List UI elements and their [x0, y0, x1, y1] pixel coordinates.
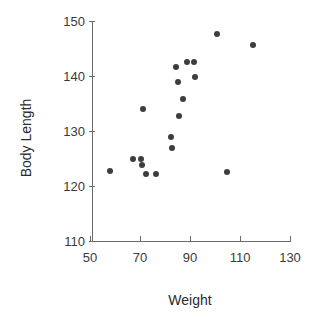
y-tick-mark [89, 21, 95, 22]
x-tick-mark [140, 236, 141, 242]
data-point [130, 156, 136, 162]
data-point [176, 113, 182, 119]
data-point [191, 59, 197, 65]
data-point [180, 96, 186, 102]
data-point [107, 168, 113, 174]
data-point [192, 74, 198, 80]
x-tick-label: 70 [133, 250, 147, 265]
y-tick-mark [89, 186, 95, 187]
data-point [175, 79, 181, 85]
y-tick-label: 150 [63, 14, 85, 29]
data-point [169, 145, 175, 151]
y-tick-label: 140 [63, 69, 85, 84]
y-tick-label: 110 [64, 234, 85, 249]
x-tick-label: 90 [183, 250, 197, 265]
x-tick-mark [290, 236, 291, 242]
y-tick-mark [89, 76, 95, 77]
data-point [173, 64, 179, 70]
data-point [140, 106, 146, 112]
y-axis-title: Body Length [18, 68, 34, 208]
data-point [214, 31, 220, 37]
x-tick-mark [190, 236, 191, 242]
data-point [139, 162, 145, 168]
data-point [168, 134, 174, 140]
y-tick-label: 120 [63, 179, 85, 194]
x-tick-label: 110 [230, 250, 251, 265]
x-tick-mark [240, 236, 241, 242]
data-point [250, 42, 256, 48]
y-tick-mark [89, 241, 95, 242]
scatter-plot-figure: 507090110130 110120130140150 Body Length… [0, 0, 309, 323]
x-tick-label: 50 [83, 250, 97, 265]
y-tick-mark [89, 131, 95, 132]
data-point [153, 171, 159, 177]
data-point [143, 171, 149, 177]
data-point [184, 59, 190, 65]
plot-area: 507090110130 110120130140150 Body Length… [0, 0, 309, 323]
x-axis-title: Weight [90, 292, 290, 308]
y-tick-label: 130 [63, 124, 85, 139]
x-tick-label: 130 [279, 250, 301, 265]
data-point [224, 169, 230, 175]
